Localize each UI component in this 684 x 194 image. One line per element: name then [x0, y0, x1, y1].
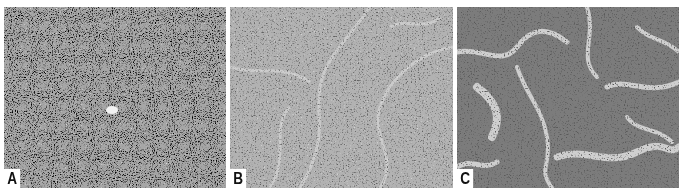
panel-label-a: A [4, 169, 20, 188]
panel-a-micrograph: A [4, 7, 226, 188]
panel-label-c: C [457, 169, 473, 188]
panel-b-micrograph: B [230, 7, 453, 188]
micrograph-b-image [230, 7, 453, 188]
micrograph-c-image [457, 7, 679, 188]
micrograph-a-image [4, 7, 226, 188]
histology-figure: A [0, 0, 684, 194]
panel-c-micrograph: C [457, 7, 679, 188]
panel-label-b: B [230, 169, 246, 188]
